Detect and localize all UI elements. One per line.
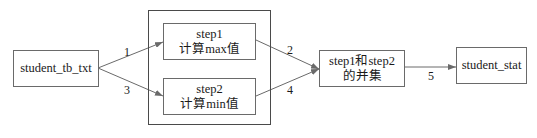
- edge-label-2: 2: [287, 44, 293, 56]
- node-step1: step1 计算max值: [163, 23, 256, 60]
- edge-label-3: 3: [124, 84, 130, 96]
- node-desc: 的并集: [343, 69, 382, 84]
- node-union: step1和step2 的并集: [319, 50, 405, 87]
- node-title: step1和step2: [329, 54, 395, 69]
- node-desc: 计算max值: [179, 42, 240, 57]
- node-label: student_tb_txt: [20, 61, 92, 76]
- node-student-tb-txt: student_tb_txt: [13, 50, 99, 87]
- node-title: step2: [196, 82, 222, 97]
- node-desc: 计算min值: [180, 97, 238, 112]
- edge-label-4: 4: [287, 84, 293, 96]
- node-student-stat: student_stat: [456, 47, 527, 84]
- node-label: student_stat: [462, 58, 522, 73]
- node-title: step1: [196, 27, 222, 42]
- node-step2: step2 计算min值: [163, 78, 256, 115]
- edge-label-5: 5: [428, 70, 434, 82]
- edge-label-1: 1: [124, 46, 130, 58]
